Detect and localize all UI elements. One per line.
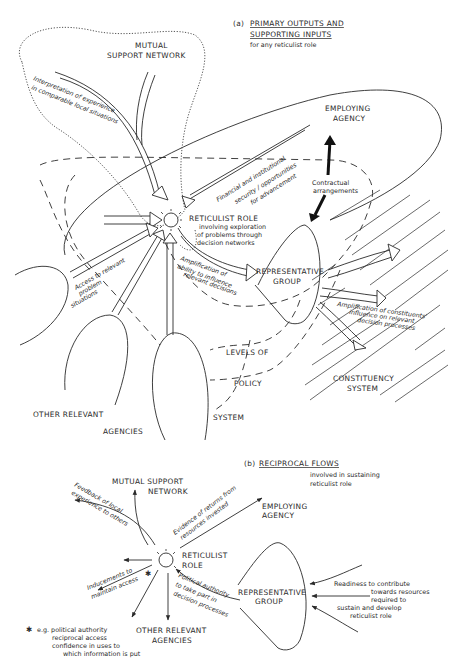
rep-group-label-1: REPRESENTATIVE <box>256 267 324 276</box>
readiness-label-4: sustain and develop <box>337 604 402 612</box>
reticulist-role-sub-3: decision networks <box>197 239 255 247</box>
footnote-line-3: confidence in uses to <box>52 642 120 650</box>
asterisk-marker: ✱ <box>145 569 152 578</box>
part-b-caption-sub-1: involved in sustaining <box>310 471 380 479</box>
employing-agency-label-1: EMPLOYING <box>325 104 370 113</box>
other-agencies-label-2: AGENCIES <box>103 427 143 436</box>
reticulist-role-sub-2: of problems through <box>197 231 262 239</box>
other-agencies-label-1: OTHER RELEVANT <box>33 410 104 419</box>
part-b: (b) RECIPROCAL FLOWS involved in sustain… <box>26 459 430 658</box>
part-b-caption-prefix: (b) <box>244 459 255 468</box>
rep-group-b-label-2: GROUP <box>255 597 283 606</box>
readiness-label-3: required to <box>371 596 406 604</box>
readiness-label-5: reticulist role <box>350 612 392 620</box>
levels-of-policy-boundary-2 <box>65 175 160 345</box>
levels-label-1: LEVELS OF <box>226 348 268 357</box>
other-agency-shape-1 <box>15 266 68 345</box>
levels-label-2: POLICY <box>234 379 262 388</box>
footnote-line-2: reciprocal access <box>52 634 108 642</box>
constituency-label-1: CONSTITUENCY <box>333 374 394 383</box>
reticulist-role-node-b <box>157 549 176 568</box>
mutual-support-label-1: MUTUAL <box>135 41 168 50</box>
contractual-label-1: Contractual <box>312 179 349 187</box>
levels-of-policy-boundary-3 <box>210 300 300 350</box>
reticulist-role-b-label-1: RETICULIST <box>182 551 228 560</box>
footnote-marker: ✱ <box>26 625 33 634</box>
reticulist-role-label: RETICULIST ROLE <box>189 214 258 223</box>
employing-agency-b-label-2: AGENCY <box>262 511 294 520</box>
part-a: (a) PRIMARY OUTPUTS AND SUPPORTING INPUT… <box>15 19 448 440</box>
levels-label-3: SYSTEM <box>213 413 244 422</box>
contractual-label-2: arrangements <box>313 187 359 195</box>
part-b-caption-line1: RECIPROCAL FLOWS <box>259 459 339 468</box>
arrow-other-bottom <box>163 233 177 335</box>
part-a-caption-prefix: (a) <box>233 19 244 28</box>
other-agency-shape-2 <box>65 315 128 405</box>
mutual-support-b-label-1: MUTUAL SUPPORT <box>112 477 184 486</box>
rep-group-label-2: GROUP <box>273 277 301 286</box>
readiness-label-1: Readiness to contribute <box>334 580 410 588</box>
mutual-support-label-2: SUPPORT NETWORK <box>107 51 186 60</box>
part-a-caption-sub: for any reticulist role <box>250 41 316 49</box>
employing-agency-b-label-1: EMPLOYING <box>262 502 307 511</box>
reticulist-role-sub-1: involving exploration <box>199 223 266 231</box>
employing-agency-label-2: AGENCY <box>333 114 365 123</box>
other-agencies-b-label-1: OTHER RELEVANT <box>136 626 207 635</box>
part-b-caption-sub-2: reticulist role <box>310 480 352 488</box>
part-a-caption-line2: SUPPORTING INPUTS <box>250 30 332 39</box>
footnote-line-1: e.g. political authority <box>37 626 107 634</box>
arrow-mutual-support-b <box>135 490 148 545</box>
reticulist-role-b-label-2: ROLE <box>182 561 203 570</box>
reticulist-role-node <box>160 209 182 231</box>
footnote-line-4: which information is put <box>63 650 141 658</box>
constituency-label-2: SYSTEM <box>347 384 378 393</box>
rep-group-b-label-1: REPRESENTATIVE <box>238 588 306 597</box>
mutual-support-b-label-2: NETWORK <box>148 487 188 496</box>
arrow-constituents <box>316 244 400 350</box>
reticulist-diagram: (a) PRIMARY OUTPUTS AND SUPPORTING INPUT… <box>0 0 453 659</box>
part-a-caption-line1: PRIMARY OUTPUTS AND <box>250 19 344 28</box>
readiness-label-2: towards resources <box>371 588 430 596</box>
other-agencies-b-label-2: AGENCIES <box>152 636 192 645</box>
other-agency-shape-3 <box>152 333 208 440</box>
